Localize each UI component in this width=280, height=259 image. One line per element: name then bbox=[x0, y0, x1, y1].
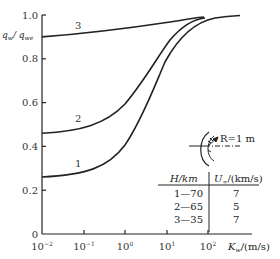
x-axis-label: Kw/(m/s) bbox=[227, 241, 270, 253]
x-tick-10: 101 bbox=[159, 240, 176, 252]
y-tick-0.2: 0.2 bbox=[22, 185, 38, 196]
curve-label-1: 1 bbox=[75, 158, 81, 169]
x-tick-labels: 10−2 10−1 100 101 102 bbox=[31, 240, 216, 252]
curve-1 bbox=[42, 16, 240, 178]
x-tick-0.01: 10−2 bbox=[31, 240, 53, 252]
curves bbox=[42, 16, 240, 178]
y-tick-0.6: 0.6 bbox=[22, 97, 38, 108]
table-header-u: U∞/(km/s) bbox=[214, 173, 263, 185]
x-tick-1: 100 bbox=[117, 240, 134, 252]
legend-table: H/km U∞/(km/s) 1—70 7 2—65 5 3—35 7 bbox=[158, 172, 263, 232]
table-header-h: H/km bbox=[169, 173, 198, 184]
x-tick-100: 102 bbox=[200, 240, 217, 252]
table-row-1-h: 1—70 bbox=[174, 188, 203, 199]
table-row-1-u: 7 bbox=[233, 188, 239, 199]
y-tick-0: 0 bbox=[32, 229, 38, 240]
curve-3 bbox=[42, 17, 204, 37]
table-row-3-h: 3—35 bbox=[174, 214, 203, 225]
table-row-3-u: 7 bbox=[233, 214, 239, 225]
y-tick-0.4: 0.4 bbox=[22, 141, 38, 152]
x-tick-0.1: 10−1 bbox=[73, 240, 95, 252]
table-row-2-u: 5 bbox=[233, 201, 239, 212]
table-row-2-h: 2—65 bbox=[174, 201, 203, 212]
curve-label-2: 2 bbox=[75, 113, 81, 124]
radius-annotation: R=1 m bbox=[220, 133, 255, 144]
chart: 0 0.2 0.4 0.6 0.8 1.0 qw/ qwe 10−2 10−1 … bbox=[0, 0, 280, 259]
curve-label-3: 3 bbox=[75, 20, 81, 31]
axes bbox=[42, 15, 252, 234]
y-tick-0.8: 0.8 bbox=[22, 53, 38, 64]
y-tick-1.0: 1.0 bbox=[22, 10, 38, 21]
y-tick-labels: 0 0.2 0.4 0.6 0.8 1.0 bbox=[22, 10, 38, 240]
y-axis-label: qw/ qwe bbox=[2, 30, 34, 41]
